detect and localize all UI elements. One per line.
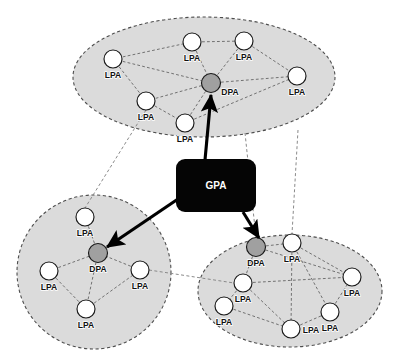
lpa-node-circle[interactable] bbox=[131, 261, 149, 279]
agent-node-bl-lpa-3[interactable]: LPA bbox=[131, 261, 149, 291]
agent-node-label: LPA bbox=[138, 112, 154, 122]
agent-node-br-lpa-1[interactable]: LPA bbox=[283, 234, 301, 264]
agent-node-top-lpa-2[interactable]: LPA bbox=[183, 33, 201, 63]
lpa-node-circle[interactable] bbox=[282, 320, 300, 338]
agent-node-label: LPA bbox=[216, 317, 232, 327]
agent-node-bl-dpa[interactable]: DPA bbox=[89, 244, 108, 275]
global-planner-layer: GPA bbox=[176, 159, 256, 212]
lpa-node-circle[interactable] bbox=[137, 92, 155, 110]
agent-node-label: DPA bbox=[89, 264, 106, 274]
agent-node-bl-lpa-2[interactable]: LPA bbox=[40, 262, 58, 292]
agent-node-label: LPA bbox=[184, 53, 200, 63]
lpa-node-circle[interactable] bbox=[104, 50, 122, 68]
lpa-node-circle[interactable] bbox=[234, 274, 252, 292]
agent-node-label: LPA bbox=[322, 323, 338, 333]
agent-node-label: LPA bbox=[284, 254, 300, 264]
agent-node-label: LPA bbox=[78, 320, 94, 330]
agent-node-label: LPA bbox=[105, 70, 121, 80]
lpa-node-circle[interactable] bbox=[235, 32, 253, 50]
agent-node-label: LPA bbox=[303, 325, 319, 335]
dpa-node-circle[interactable] bbox=[247, 238, 266, 257]
lpa-node-circle[interactable] bbox=[215, 297, 233, 315]
agent-node-label: LPA bbox=[289, 87, 305, 97]
agent-node-label: LPA bbox=[41, 282, 57, 292]
dpa-node-circle[interactable] bbox=[89, 244, 108, 263]
agent-node-label: LPA bbox=[77, 228, 93, 238]
agent-node-top-lpa-5[interactable]: LPA bbox=[137, 92, 155, 122]
lpa-node-circle[interactable] bbox=[288, 67, 306, 85]
lpa-node-circle[interactable] bbox=[343, 268, 361, 286]
agent-node-bl-lpa-4[interactable]: LPA bbox=[77, 300, 95, 330]
agent-node-label: DPA bbox=[221, 87, 238, 97]
agent-node-top-lpa-6[interactable]: LPA bbox=[176, 114, 194, 144]
lpa-node-circle[interactable] bbox=[176, 114, 194, 132]
agent-node-bl-lpa-1[interactable]: LPA bbox=[76, 208, 94, 238]
lpa-node-circle[interactable] bbox=[283, 234, 301, 252]
agent-node-br-dpa[interactable]: DPA bbox=[247, 238, 266, 269]
lpa-node-circle[interactable] bbox=[321, 303, 339, 321]
agent-node-top-lpa-3[interactable]: LPA bbox=[235, 32, 253, 62]
agent-node-label: LPA bbox=[235, 294, 251, 304]
peer-link-peer-top-right-to-bottom-right bbox=[292, 130, 298, 234]
dpa-node-circle[interactable] bbox=[202, 74, 221, 93]
agent-node-br-lpa-5[interactable]: LPA bbox=[321, 303, 339, 333]
agent-node-br-lpa-3[interactable]: LPA bbox=[234, 274, 252, 304]
agent-hierarchy-diagram: LPALPALPALPALPALPADPALPALPALPALPADPALPAL… bbox=[0, 0, 401, 359]
lpa-node-circle[interactable] bbox=[77, 300, 95, 318]
agent-node-label: LPA bbox=[132, 281, 148, 291]
command-arrow-gpa-to-bottom-right-dpa bbox=[243, 212, 259, 238]
lpa-node-circle[interactable] bbox=[76, 208, 94, 226]
agent-node-br-lpa-2[interactable]: LPA bbox=[343, 268, 361, 298]
agent-node-label: LPA bbox=[236, 52, 252, 62]
gpa-label: GPA bbox=[206, 180, 227, 191]
agent-node-br-lpa-4[interactable]: LPA bbox=[215, 297, 233, 327]
agent-node-label: DPA bbox=[247, 258, 264, 268]
agent-node-label: LPA bbox=[177, 134, 193, 144]
agent-node-top-lpa-4[interactable]: LPA bbox=[288, 67, 306, 97]
lpa-node-circle[interactable] bbox=[183, 33, 201, 51]
diagram-canvas: LPALPALPALPALPALPADPALPALPALPALPADPALPAL… bbox=[0, 0, 401, 359]
lpa-node-circle[interactable] bbox=[40, 262, 58, 280]
agent-node-top-lpa-1[interactable]: LPA bbox=[104, 50, 122, 80]
agent-node-label: LPA bbox=[344, 288, 360, 298]
peer-link-peer-top-to-bottom-left bbox=[85, 110, 146, 208]
